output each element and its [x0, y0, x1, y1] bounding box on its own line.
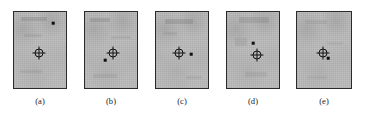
point-estimate-dot-d — [252, 42, 255, 45]
crosshair-target-marker-b — [107, 47, 120, 60]
plate-smudge-e2 — [327, 42, 343, 45]
image-plate-a — [13, 11, 67, 89]
crosshair-target-marker-c — [173, 47, 186, 60]
plate-smudge-a1 — [21, 17, 47, 21]
point-estimate-dot-c — [190, 53, 193, 56]
crosshair-vertical-bar-d — [256, 49, 257, 62]
panel-label-d: (d) — [233, 96, 273, 106]
panel-label-b: (b) — [91, 96, 131, 106]
plate-smudge-e3 — [307, 76, 327, 79]
image-plate-e — [296, 11, 352, 89]
plate-smudge-a3 — [20, 70, 42, 73]
panel-label-a: (a) — [20, 96, 60, 106]
plate-smudge-c3 — [186, 76, 202, 79]
image-plate-b — [84, 11, 138, 89]
plate-smudge-b2 — [111, 36, 131, 39]
plate-smudge-a2 — [24, 34, 42, 37]
plate-smudge-d2 — [235, 38, 247, 46]
plate-smudge-c1 — [165, 19, 193, 24]
plate-smudge-d3 — [245, 72, 267, 77]
panel-label-c: (c) — [162, 96, 202, 106]
plate-smudge-c2 — [163, 32, 177, 35]
crosshair-target-marker-a — [33, 47, 46, 60]
crosshair-vertical-bar-c — [178, 47, 179, 60]
image-plate-c — [155, 11, 209, 89]
point-estimate-dot-a — [52, 22, 55, 25]
plate-smudge-b3 — [93, 74, 117, 78]
crosshair-target-marker-d — [251, 49, 264, 62]
plate-smudge-b1 — [90, 18, 110, 22]
point-estimate-dot-b — [104, 59, 107, 62]
panel-label-e: (e) — [304, 96, 344, 106]
figure-panel-series: (a) (b) — [0, 0, 372, 118]
plate-smudge-d1 — [239, 17, 269, 23]
crosshair-vertical-bar-a — [38, 47, 39, 60]
crosshair-vertical-bar-b — [112, 47, 113, 60]
crosshair-vertical-bar-e — [322, 47, 323, 60]
plate-smudge-e1 — [305, 20, 327, 24]
point-estimate-dot-e — [327, 57, 330, 60]
image-plate-d — [226, 11, 280, 89]
